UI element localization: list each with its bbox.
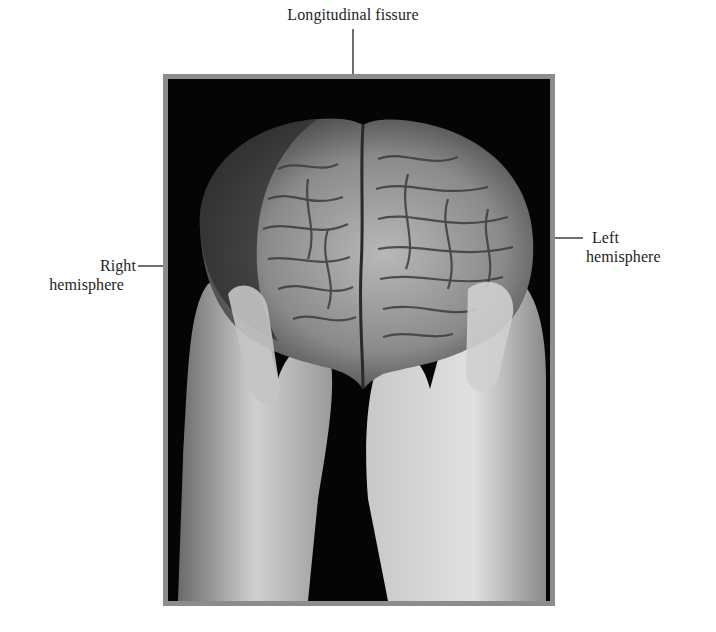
longitudinal-fissure [360,125,363,389]
label-left-hemisphere-line2: hemisphere [586,247,696,266]
label-left-hemisphere-line1: Left [586,228,696,247]
label-left-hemisphere: Left hemisphere [586,228,696,266]
label-right-hemisphere-line2: hemisphere [40,275,124,294]
brain-illustration [168,79,550,601]
label-right-hemisphere: Right hemisphere [40,256,138,294]
label-right-hemisphere-line1: Right [40,256,138,275]
label-longitudinal-fissure: Longitudinal fissure [258,5,448,24]
brain-photo [168,79,550,601]
photo-frame [163,74,555,606]
